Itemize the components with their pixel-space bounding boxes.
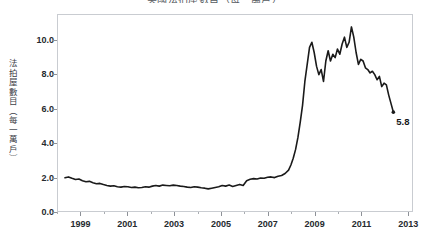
x-tick-minor-mark xyxy=(104,212,105,214)
y-tick-mark xyxy=(52,109,57,110)
x-tick-label: 2003 xyxy=(151,219,197,229)
plot-area xyxy=(57,14,413,212)
y-axis-tick-labels: 0.02.04.06.08.010.0 xyxy=(16,0,54,252)
x-tick-minor-mark xyxy=(244,212,245,214)
x-tick-label: 2013 xyxy=(385,219,429,229)
y-tick-mark xyxy=(52,143,57,144)
y-tick-label: 10.0 xyxy=(20,35,54,45)
x-tick-mark xyxy=(315,212,316,216)
x-tick-label: 2001 xyxy=(104,219,150,229)
y-tick-label: 6.0 xyxy=(20,104,54,114)
y-tick-mark xyxy=(52,40,57,41)
chart-title: 美國法拍屋數目（每一萬戶） xyxy=(0,0,429,3)
y-tick-label: 2.0 xyxy=(20,173,54,183)
x-tick-mark xyxy=(80,212,81,216)
y-tick-label: 8.0 xyxy=(20,69,54,79)
series-endpoint-marker xyxy=(392,110,396,114)
foreclosure-line-series xyxy=(65,27,393,189)
y-axis-label: 法拍屋數目（每一萬戶） xyxy=(6,59,15,164)
x-tick-label: 2009 xyxy=(292,219,338,229)
x-tick-minor-mark xyxy=(198,212,199,214)
x-tick-minor-mark xyxy=(57,212,58,214)
x-tick-label: 2007 xyxy=(245,219,291,229)
endpoint-value-label: 5.8 xyxy=(396,116,409,127)
x-tick-label: 2011 xyxy=(338,219,384,229)
x-tick-minor-mark xyxy=(291,212,292,214)
y-tick-mark xyxy=(52,178,57,179)
x-tick-mark xyxy=(268,212,269,216)
y-tick-label: 0.0 xyxy=(20,207,54,217)
chart-figure: 美國法拍屋數目（每一萬戶） 法拍屋數目（每一萬戶） 0.02.04.06.08.… xyxy=(0,0,429,252)
line-series-svg xyxy=(58,15,412,211)
x-tick-minor-mark xyxy=(151,212,152,214)
x-tick-mark xyxy=(221,212,222,216)
y-tick-label: 4.0 xyxy=(20,138,54,148)
x-tick-mark xyxy=(361,212,362,216)
x-tick-mark xyxy=(174,212,175,216)
x-tick-mark xyxy=(127,212,128,216)
x-tick-minor-mark xyxy=(338,212,339,214)
x-tick-label: 2005 xyxy=(198,219,244,229)
x-tick-label: 1999 xyxy=(57,219,103,229)
x-tick-mark xyxy=(408,212,409,216)
y-tick-mark xyxy=(52,74,57,75)
